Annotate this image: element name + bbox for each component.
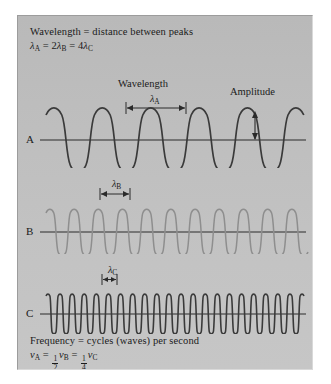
fraction-denominator-1: 2	[52, 363, 58, 370]
wave-row-c: λC C	[18, 264, 313, 334]
wave-row-b: λB B	[18, 176, 313, 254]
top-caption: Wavelength = distance between peaks λA =…	[30, 25, 193, 56]
fraction-denominator-2: 4	[81, 363, 87, 370]
equals-sign-1: =	[40, 349, 51, 360]
wave-b-graphic	[18, 176, 313, 254]
wave-a-graphic	[18, 78, 313, 168]
wavelength-definition-text: Wavelength = distance between peaks	[30, 25, 193, 39]
wavelength-bracket-c	[102, 274, 117, 285]
fraction-one-half: 12	[52, 355, 58, 370]
nu-subscript-c: C	[93, 353, 98, 362]
wave-c-graphic	[18, 264, 313, 334]
fraction-numerator-2: 1	[81, 355, 87, 363]
wavelength-bracket-a	[126, 102, 186, 114]
frequency-definition-text: Frequency = cycles (waves) per second	[30, 334, 199, 348]
equals-four: = 4	[66, 40, 83, 51]
wave-row-a: Wavelength λA Amplitude A	[18, 78, 313, 168]
frequency-relation-formula: νA = 12νB = 14νC	[30, 348, 199, 370]
wave-a-curve	[46, 108, 304, 168]
wave-figure-panel: Wavelength = distance between peaks λA =…	[17, 15, 313, 370]
equals-sign-2: =	[69, 349, 80, 360]
wavelength-bracket-b	[100, 188, 130, 200]
wavelength-relation-formula: λA = 2λB = 4λC	[30, 39, 193, 56]
bottom-caption: Frequency = cycles (waves) per second νA…	[30, 334, 199, 370]
fraction-numerator-1: 1	[52, 355, 58, 363]
lambda-subscript-c: C	[88, 44, 93, 53]
fraction-one-quarter: 14	[81, 355, 87, 370]
equals-two: = 2	[40, 40, 57, 51]
